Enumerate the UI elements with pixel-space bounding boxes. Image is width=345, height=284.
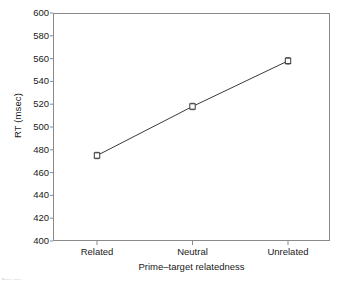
y-tick-label: 540 [23,76,49,86]
x-tick-label-neutral: Neutral [153,246,233,257]
y-tick-label: 580 [23,31,49,41]
x-tick-label-unrelated: Unrelated [248,246,328,257]
y-axis-title: RT (msec) [12,66,23,166]
y-tick-label: 520 [23,99,49,109]
x-axis-tick-labels: Related Neutral Unrelated [0,246,345,260]
x-tick-label-related: Related [57,246,137,257]
y-tick-label: 480 [23,145,49,155]
y-tick-label: 420 [23,213,49,223]
y-tick-label: 500 [23,122,49,132]
y-tick-label: 460 [23,168,49,178]
x-tick-marks [97,241,288,245]
y-axis-tick-labels: 600 580 560 540 520 500 480 460 440 420 … [22,0,49,284]
caption-fragment: •— — [2,275,48,283]
y-tick-label: 560 [23,54,49,64]
y-tick-label: 400 [23,236,49,246]
y-tick-label: 440 [23,190,49,200]
x-axis-title: Prime–target relatedness [53,261,330,272]
y-tick-label: 600 [23,8,49,18]
plot-area [53,13,330,241]
figure: RT (msec) 600 580 560 540 520 500 480 46… [0,0,345,284]
